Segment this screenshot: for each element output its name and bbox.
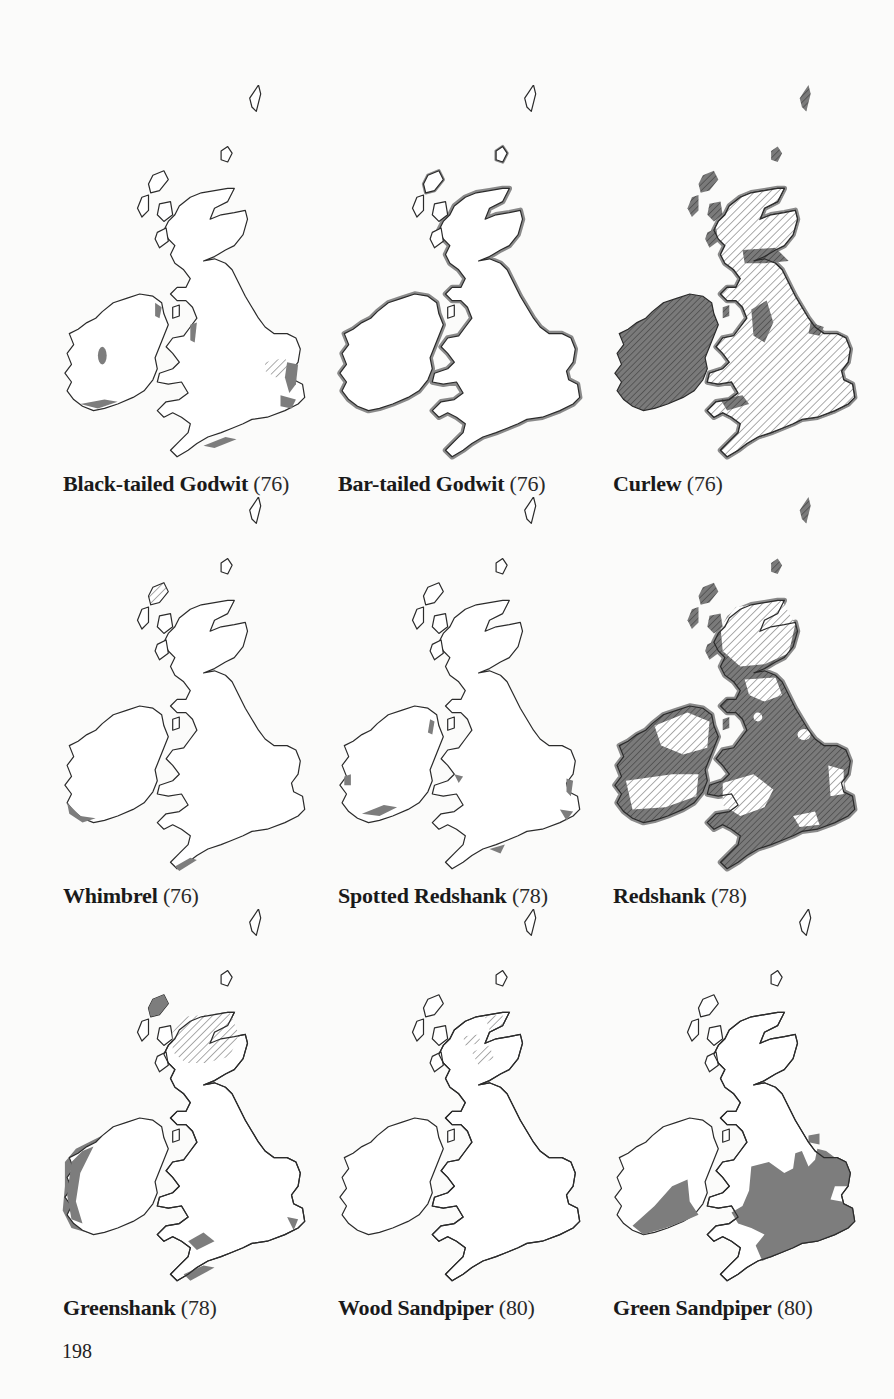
map-caption: Curlew (76) <box>613 471 723 497</box>
species-name: Greenshank <box>63 1295 176 1320</box>
species-name: Curlew <box>613 471 681 496</box>
map-greenshank <box>55 909 315 1299</box>
map-caption: Whimbrel (76) <box>63 883 199 909</box>
map-caption: Black-tailed Godwit (76) <box>63 471 289 497</box>
map-green-sandpiper <box>605 909 865 1299</box>
species-ref: (78) <box>711 883 747 908</box>
map-panel-spotted-redshank: Spotted Redshank (78) <box>330 497 605 907</box>
map-caption: Wood Sandpiper (80) <box>338 1295 535 1321</box>
map-bar-tailed-godwit <box>330 85 590 475</box>
species-name: Redshank <box>613 883 706 908</box>
map-caption: Spotted Redshank (78) <box>338 883 548 909</box>
map-spotted-redshank <box>330 497 590 887</box>
map-panel-green-sandpiper: Green Sandpiper (80) <box>605 909 880 1319</box>
map-curlew <box>605 85 865 475</box>
species-ref: (80) <box>499 1295 535 1320</box>
page-number: 198 <box>62 1340 92 1363</box>
map-panel-wood-sandpiper: Wood Sandpiper (80) <box>330 909 605 1319</box>
species-name: Spotted Redshank <box>338 883 507 908</box>
species-ref: (76) <box>510 471 546 496</box>
species-ref: (80) <box>777 1295 813 1320</box>
species-ref: (78) <box>512 883 548 908</box>
book-page: Black-tailed Godwit (76) Bar-tailed Godw… <box>0 0 894 1399</box>
map-wood-sandpiper <box>330 909 590 1299</box>
map-caption: Green Sandpiper (80) <box>613 1295 813 1321</box>
species-name: Wood Sandpiper <box>338 1295 494 1320</box>
map-black-tailed-godwit <box>55 85 315 475</box>
species-ref: (76) <box>163 883 199 908</box>
species-name: Whimbrel <box>63 883 158 908</box>
species-name: Bar-tailed Godwit <box>338 471 504 496</box>
map-whimbrel <box>55 497 315 887</box>
map-caption: Redshank (78) <box>613 883 747 909</box>
map-panel-black-tailed-godwit: Black-tailed Godwit (76) <box>55 85 330 495</box>
map-caption: Bar-tailed Godwit (76) <box>338 471 545 497</box>
species-name: Black-tailed Godwit <box>63 471 248 496</box>
map-panel-curlew: Curlew (76) <box>605 85 880 495</box>
species-ref: (78) <box>181 1295 217 1320</box>
map-redshank <box>605 497 865 887</box>
species-ref: (76) <box>253 471 289 496</box>
species-ref: (76) <box>687 471 723 496</box>
map-panel-whimbrel: Whimbrel (76) <box>55 497 330 907</box>
map-panel-bar-tailed-godwit: Bar-tailed Godwit (76) <box>330 85 605 495</box>
map-caption: Greenshank (78) <box>63 1295 217 1321</box>
species-name: Green Sandpiper <box>613 1295 772 1320</box>
map-panel-greenshank: Greenshank (78) <box>55 909 330 1319</box>
map-panel-redshank: Redshank (78) <box>605 497 880 907</box>
